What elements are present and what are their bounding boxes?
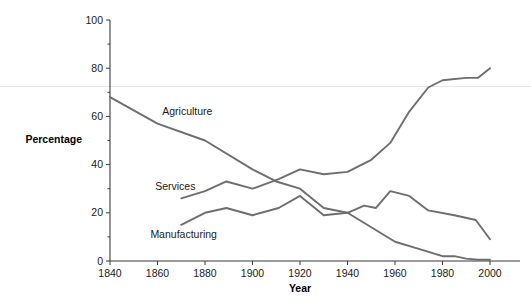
x-tick-label: 1940 [336,267,360,279]
line-chart: 020406080100 184018601880190019201940196… [0,0,531,303]
x-tick-label: 1900 [241,267,265,279]
y-tick-label: 0 [97,255,103,267]
y-tick-label: 80 [91,62,103,74]
y-tick-label: 60 [91,110,103,122]
x-axis-title: Year [289,282,311,294]
series-label-services: Services [155,180,195,192]
x-tick-label: 1860 [146,267,170,279]
x-tick-label: 1880 [193,267,217,279]
series-line-manufacturing [181,191,490,239]
y-axis-title: Percentage [25,133,82,145]
series-label-agriculture: Agriculture [162,105,212,117]
x-tick-label: 1960 [383,267,407,279]
x-tick-label: 1920 [288,267,312,279]
series-line-services [181,68,490,198]
y-axis: 020406080100 [85,14,110,267]
x-tick-label: 1980 [431,267,455,279]
chart-svg: 020406080100 184018601880190019201940196… [0,0,531,303]
y-tick-label: 20 [91,206,103,218]
x-tick-label: 1840 [98,267,122,279]
y-tick-label: 100 [85,14,103,26]
y-tick-label: 40 [91,158,103,170]
x-axis: 184018601880190019201940196019802000 [98,261,520,279]
series-label-manufacturing: Manufacturing [150,228,217,240]
x-tick-label: 2000 [478,267,502,279]
